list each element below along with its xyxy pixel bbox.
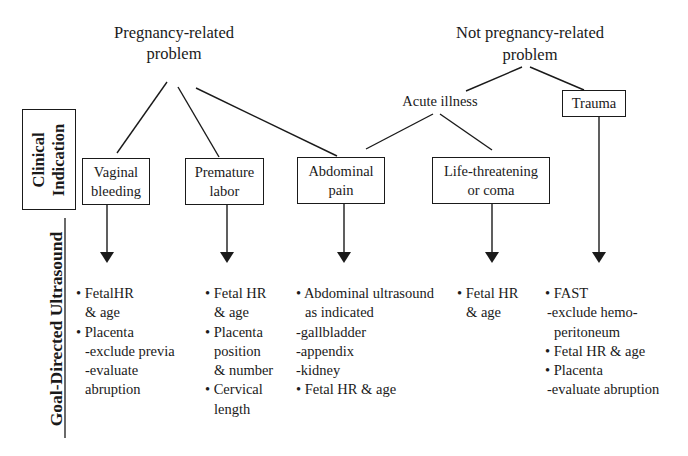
goal-item: • FetalHR <box>76 284 175 303</box>
node-acute-illness: Acute illness <box>390 93 490 110</box>
label-line: Indication <box>49 109 69 211</box>
edge-pregnancy-abdominal <box>196 88 337 156</box>
goal-item: • Fetal HR & age <box>545 342 659 361</box>
root-line: Not pregnancy-related <box>438 22 622 44</box>
goal-item: • Placenta <box>545 361 659 380</box>
goal-item: • Fetal HR & age <box>296 380 434 399</box>
goals-abdominal-pain: • Abdominal ultrasound as indicated -gal… <box>296 284 434 400</box>
goal-item: -exclude hemo- <box>545 303 659 322</box>
goal-item: & number <box>205 361 273 380</box>
goals-life-threatening: • Fetal HR & age <box>457 284 518 323</box>
arrow-head-icon <box>337 252 351 263</box>
edge-acute-life <box>440 114 492 150</box>
root-line: Pregnancy-related <box>94 22 254 43</box>
goals-vaginal-bleeding: • FetalHR & age • Placenta -exclude prev… <box>76 284 175 400</box>
goal-item: -exclude previa <box>76 342 175 361</box>
goal-item: • Placenta <box>205 323 273 342</box>
goal-item: • Cervical <box>205 380 273 399</box>
node-life-threatening: Life-threatening or coma <box>432 157 550 204</box>
label-line: Clinical <box>29 109 49 211</box>
goal-item: • Fetal HR <box>457 284 518 303</box>
root-not-pregnancy-related: Not pregnancy-related problem <box>438 22 622 66</box>
goal-item: -kidney <box>296 361 434 380</box>
node-label: Life-threatening <box>433 162 549 181</box>
node-label: Vaginal <box>83 163 149 182</box>
goal-item: • Placenta <box>76 323 175 342</box>
goal-item: & age <box>457 303 518 322</box>
goal-item: & age <box>76 303 175 322</box>
node-label: pain <box>298 181 384 200</box>
edge-pregnancy-premature <box>178 87 219 157</box>
node-label: Premature <box>186 163 263 182</box>
goal-item: -appendix <box>296 342 434 361</box>
node-label: bleeding <box>83 182 149 201</box>
arrow-head-icon <box>100 252 114 263</box>
goal-item: • FAST <box>545 284 659 303</box>
goal-item: • Abdominal ultrasound <box>296 284 434 303</box>
goal-item: abruption <box>76 380 175 399</box>
node-label: labor <box>186 182 263 201</box>
root-pregnancy-related: Pregnancy-related problem <box>94 22 254 64</box>
goal-item: • Fetal HR <box>205 284 273 303</box>
node-vaginal-bleeding: Vaginal bleeding <box>82 158 150 205</box>
goal-item: -evaluate abruption <box>545 380 659 399</box>
goals-trauma: • FAST -exclude hemo- peritoneum • Fetal… <box>545 284 659 400</box>
edge-notpreg-acute <box>466 67 522 91</box>
node-trauma-label: Trauma <box>563 94 625 113</box>
node-premature-labor: Premature labor <box>185 158 264 205</box>
goal-item: -gallbladder <box>296 323 434 342</box>
goal-item: length <box>205 400 273 419</box>
node-trauma: Trauma <box>562 90 626 117</box>
goal-item: peritoneum <box>545 323 659 342</box>
root-line: problem <box>94 43 254 64</box>
node-label: or coma <box>433 181 549 200</box>
edge-acute-abdominal <box>366 114 433 149</box>
arrow-head-icon <box>485 252 499 263</box>
goal-item: as indicated <box>296 303 434 322</box>
node-abdominal-pain: Abdominal pain <box>297 157 385 204</box>
goals-premature-labor: • Fetal HR & age • Placenta position & n… <box>205 284 273 419</box>
clinical-indication-label: Clinical Indication <box>29 109 69 211</box>
goal-item: -evaluate <box>76 361 175 380</box>
node-label: Abdominal <box>298 162 384 181</box>
arrow-head-icon <box>592 252 606 263</box>
edge-notpreg-trauma <box>530 67 584 90</box>
arrow-head-icon <box>220 252 234 263</box>
root-line: problem <box>438 44 622 66</box>
goal-item: & age <box>205 303 273 322</box>
goal-item: position <box>205 342 273 361</box>
edge-pregnancy-vaginal <box>117 82 167 153</box>
goal-directed-ultrasound-label: Goal-Directed Ultrasound <box>45 219 67 439</box>
